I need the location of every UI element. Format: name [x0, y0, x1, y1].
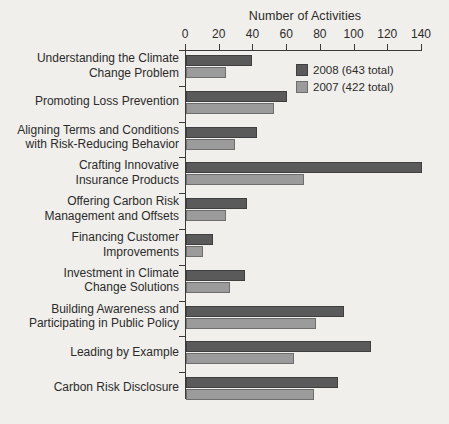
bar-2007 — [186, 210, 226, 221]
bar-2007 — [186, 139, 235, 150]
x-axis-tick-labels: 020406080100120140 — [0, 27, 449, 41]
legend-item: 2008 (643 total) — [296, 62, 424, 77]
category-label-line: with Risk-Reducing Behavior — [0, 137, 179, 152]
category-label-line: Promoting Loss Prevention — [0, 94, 179, 109]
legend-swatch-icon — [296, 64, 308, 76]
category-label: Understanding the ClimateChange Problem — [0, 51, 179, 80]
bar-2008 — [186, 377, 338, 388]
y-tick-mark — [179, 193, 185, 194]
x-tick-mark-0 — [185, 44, 186, 51]
bar-2008 — [186, 55, 252, 66]
bar-2007 — [186, 174, 304, 185]
bar-2007 — [186, 389, 314, 400]
bar-2007 — [186, 353, 294, 364]
x-tick-mark-120 — [387, 44, 388, 51]
x-tick-label-80: 80 — [313, 27, 326, 41]
bar-2008 — [186, 198, 247, 209]
x-tick-label-100: 100 — [344, 27, 364, 41]
category-label-line: Offering Carbon Risk — [0, 194, 179, 209]
y-tick-mark — [179, 372, 185, 373]
bar-2008 — [186, 234, 213, 245]
bar-2008 — [186, 91, 287, 102]
legend-swatch-icon — [296, 81, 308, 93]
category-label-line: Building Awareness and — [0, 302, 179, 317]
bar-2007 — [186, 67, 226, 78]
bar-2008 — [186, 270, 245, 281]
x-tick-label-60: 60 — [279, 27, 292, 41]
x-tick-mark-100 — [354, 44, 355, 51]
category-label-line: Management and Offsets — [0, 209, 179, 224]
category-label: Leading by Example — [0, 345, 179, 360]
x-tick-label-140: 140 — [411, 27, 431, 41]
y-tick-mark — [179, 50, 185, 51]
category-label: Investment in ClimateChange Solutions — [0, 266, 179, 295]
x-tick-mark-20 — [219, 44, 220, 51]
bar-2008 — [186, 127, 257, 138]
category-label-line: Crafting Innovative — [0, 158, 179, 173]
legend-item: 2007 (422 total) — [296, 79, 424, 94]
x-tick-mark-80 — [320, 44, 321, 51]
category-label-line: Leading by Example — [0, 345, 179, 360]
x-tick-label-20: 20 — [212, 27, 225, 41]
bar-2007 — [186, 103, 274, 114]
bar-2008 — [186, 341, 371, 352]
category-label-line: Carbon Risk Disclosure — [0, 380, 179, 395]
y-tick-mark — [179, 301, 185, 302]
y-tick-mark — [179, 86, 185, 87]
y-tick-mark — [179, 157, 185, 158]
category-label-line: Investment in Climate — [0, 266, 179, 281]
category-label: Aligning Terms and Conditionswith Risk-R… — [0, 123, 179, 152]
x-tick-mark-140 — [421, 44, 422, 51]
x-axis-title: Number of Activities — [185, 9, 425, 23]
category-label: Financing CustomerImprovements — [0, 230, 179, 259]
chart-legend: 2008 (643 total)2007 (422 total) — [296, 62, 424, 96]
x-tick-mark-60 — [286, 44, 287, 51]
category-label: Offering Carbon RiskManagement and Offse… — [0, 194, 179, 223]
y-tick-mark — [179, 122, 185, 123]
category-label-line: Insurance Products — [0, 173, 179, 188]
x-tick-label-40: 40 — [246, 27, 259, 41]
category-label-line: Understanding the Climate — [0, 51, 179, 66]
x-tick-label-120: 120 — [377, 27, 397, 41]
legend-label: 2007 (422 total) — [313, 81, 394, 93]
bar-2007 — [186, 318, 316, 329]
category-label-line: Financing Customer — [0, 230, 179, 245]
y-tick-mark — [179, 265, 185, 266]
category-label-line: Change Solutions — [0, 280, 179, 295]
bar-2007 — [186, 282, 230, 293]
category-label-line: Change Problem — [0, 66, 179, 81]
category-label-line: Aligning Terms and Conditions — [0, 123, 179, 138]
category-label-line: Participating in Public Policy — [0, 316, 179, 331]
bar-2008 — [186, 306, 344, 317]
x-tick-label-0: 0 — [182, 27, 189, 41]
x-tick-mark-40 — [252, 44, 253, 51]
bar-chart: Number of Activities 020406080100120140 … — [0, 0, 449, 424]
y-tick-mark — [179, 336, 185, 337]
bar-2008 — [186, 162, 422, 173]
category-label: Building Awareness andParticipating in P… — [0, 302, 179, 331]
bar-2007 — [186, 246, 203, 257]
category-label-line: Improvements — [0, 245, 179, 260]
legend-label: 2008 (643 total) — [313, 64, 394, 76]
category-label: Carbon Risk Disclosure — [0, 380, 179, 395]
category-label: Promoting Loss Prevention — [0, 94, 179, 109]
category-label: Crafting InnovativeInsurance Products — [0, 158, 179, 187]
y-tick-mark — [179, 229, 185, 230]
plot-area — [186, 51, 449, 399]
